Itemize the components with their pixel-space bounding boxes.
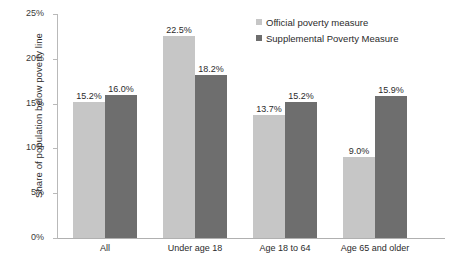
bar-official-2[interactable]: 13.7% bbox=[253, 115, 285, 238]
y-tick-label-3: 15% bbox=[4, 98, 44, 108]
bar-value-label: 15.9% bbox=[378, 85, 404, 95]
y-tick-label-1: 5% bbox=[4, 187, 44, 197]
bar-official-0[interactable]: 15.2% bbox=[73, 102, 105, 238]
y-axis-line bbox=[57, 14, 58, 238]
y-tick-label-2: 10% bbox=[4, 142, 44, 152]
y-tick-label-4: 20% bbox=[4, 53, 44, 63]
legend-item-official[interactable]: Official poverty measure bbox=[256, 14, 399, 30]
x-axis-line bbox=[57, 238, 445, 239]
y-tick-2 bbox=[53, 148, 58, 149]
y-tick-3 bbox=[53, 104, 58, 105]
bar-supplemental-1[interactable]: 18.2% bbox=[195, 75, 227, 238]
chart-legend: Official poverty measure Supplemental Po… bbox=[256, 14, 399, 46]
legend-swatch-official bbox=[256, 19, 262, 25]
y-tick-1 bbox=[53, 193, 58, 194]
y-tick-0 bbox=[53, 238, 58, 239]
bar-supplemental-0[interactable]: 16.0% bbox=[105, 95, 137, 238]
bar-group-1: 22.5% 18.2% Under age 18 bbox=[163, 14, 227, 238]
bar-value-label: 22.5% bbox=[166, 25, 192, 35]
plot-area: 0% 5% 10% 15% 20% 25% 15.2% 16.0% All 22… bbox=[57, 14, 445, 238]
y-tick-4 bbox=[53, 59, 58, 60]
bar-official-3[interactable]: 9.0% bbox=[343, 157, 375, 238]
category-label-0: All bbox=[100, 243, 110, 253]
poverty-measure-bar-chart: Share of population below poverty line 0… bbox=[0, 0, 450, 270]
bar-group-2: 13.7% 15.2% Age 18 to 64 bbox=[253, 14, 317, 238]
category-label-1: Under age 18 bbox=[168, 243, 223, 253]
legend-swatch-supplemental bbox=[256, 35, 262, 41]
y-axis-title: Share of population below poverty line bbox=[33, 0, 44, 236]
category-label-3: Age 65 and older bbox=[341, 243, 410, 253]
legend-label-supplemental: Supplemental Poverty Measure bbox=[266, 33, 399, 44]
bar-group-3: 9.0% 15.9% Age 65 and older bbox=[343, 14, 407, 238]
bar-value-label: 15.2% bbox=[288, 91, 314, 101]
category-label-2: Age 18 to 64 bbox=[259, 243, 310, 253]
y-tick-label-0: 0% bbox=[4, 232, 44, 242]
bar-value-label: 13.7% bbox=[256, 104, 282, 114]
bar-value-label: 18.2% bbox=[198, 64, 224, 74]
bar-value-label: 15.2% bbox=[76, 91, 102, 101]
bar-supplemental-2[interactable]: 15.2% bbox=[285, 102, 317, 238]
bar-value-label: 9.0% bbox=[349, 146, 370, 156]
bar-value-label: 16.0% bbox=[108, 84, 134, 94]
y-tick-label-5: 25% bbox=[4, 8, 44, 18]
bar-official-1[interactable]: 22.5% bbox=[163, 36, 195, 238]
legend-item-supplemental[interactable]: Supplemental Poverty Measure bbox=[256, 30, 399, 46]
legend-label-official: Official poverty measure bbox=[266, 17, 368, 28]
y-tick-5 bbox=[53, 14, 58, 15]
bar-supplemental-3[interactable]: 15.9% bbox=[375, 96, 407, 238]
bar-group-0: 15.2% 16.0% All bbox=[73, 14, 137, 238]
